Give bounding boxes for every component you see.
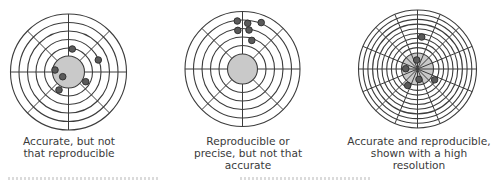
target-spoke [202, 80, 232, 110]
caption-line: accurate [168, 159, 328, 171]
hit-dot [246, 27, 253, 34]
hit-dot [258, 19, 265, 26]
caption-line: that reproducible [0, 147, 149, 159]
hit-dot [244, 20, 251, 27]
hit-dot [235, 27, 242, 34]
clipped-text-fragment [240, 177, 370, 180]
target-spoke [202, 28, 232, 58]
hit-dot [413, 57, 420, 64]
target-precise-not-accurate [185, 12, 300, 127]
hit-dot [95, 57, 102, 64]
hit-dot [431, 77, 438, 84]
target-spoke [27, 31, 57, 61]
target-spoke [27, 83, 57, 113]
hit-dot [402, 65, 409, 72]
hit-dot [418, 34, 425, 41]
hit-dot [69, 46, 76, 53]
hit-dot [52, 67, 59, 74]
hit-dot [249, 37, 256, 44]
accuracy-precision-resolution-figure: Accurate, but not that reproducible Repr… [0, 0, 492, 180]
caption-line: Accurate, but not [0, 135, 149, 147]
hit-dot [59, 73, 66, 80]
target-spoke [80, 83, 110, 113]
caption-accurate-reproducible-high-resolution: Accurate and reproducible, shown with a … [339, 135, 492, 171]
caption-line: Accurate and reproducible, [339, 135, 492, 147]
caption-line: resolution [339, 159, 492, 171]
bullseye [228, 54, 258, 84]
target-accurate-not-reproducible [11, 14, 127, 130]
target-spoke [253, 28, 283, 58]
caption-line: Reproducible or [168, 135, 328, 147]
hit-dot [56, 87, 63, 94]
clipped-text-fragment [8, 177, 158, 180]
clipped-caption-row [0, 176, 492, 180]
hit-dot [416, 76, 423, 83]
hit-dot [234, 18, 241, 25]
caption-accurate-not-reproducible: Accurate, but not that reproducible [0, 135, 149, 159]
caption-line: shown with a high [339, 147, 492, 159]
caption-precise-not-accurate: Reproducible or precise, but not that ac… [168, 135, 328, 171]
hit-dot [404, 82, 411, 89]
hit-dot [82, 78, 89, 85]
target-spoke [80, 31, 110, 61]
caption-line: precise, but not that [168, 147, 328, 159]
target-accurate-and-reproducible-high-resolution [359, 10, 477, 128]
target-spoke [253, 80, 283, 110]
